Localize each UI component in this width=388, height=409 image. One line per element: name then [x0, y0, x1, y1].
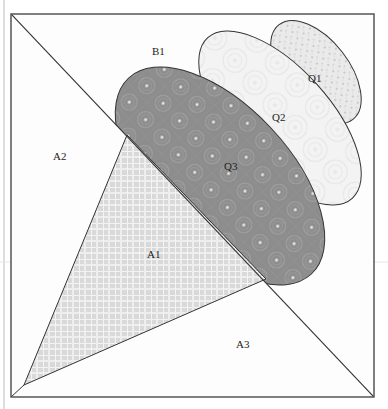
label-q1: Q1 — [308, 72, 321, 84]
label-a3: A3 — [236, 338, 250, 350]
label-a1: A1 — [147, 248, 160, 260]
quilt-block-diagram: B1 A2 A1 A3 Q1 Q2 Q3 — [0, 0, 388, 409]
label-q2: Q2 — [272, 111, 285, 123]
label-b1: B1 — [152, 45, 165, 57]
label-a2: A2 — [53, 150, 66, 162]
label-q3: Q3 — [224, 160, 238, 172]
